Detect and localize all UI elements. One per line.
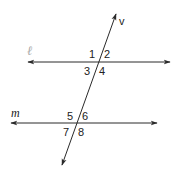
angle-8-label: 8 xyxy=(78,126,84,138)
parallel-lines-transversal-diagram: ℓ m v 1 2 3 4 5 6 7 8 xyxy=(0,0,183,175)
angle-5-label: 5 xyxy=(67,110,73,122)
angle-7-label: 7 xyxy=(63,126,69,138)
transversal-v-label: v xyxy=(119,15,125,27)
angle-1-label: 1 xyxy=(89,48,95,60)
angle-2-label: 2 xyxy=(104,48,110,60)
angle-4-label: 4 xyxy=(99,65,105,77)
line-m-label: m xyxy=(11,106,20,120)
transversal-v xyxy=(62,14,116,165)
angle-6-label: 6 xyxy=(82,110,88,122)
line-l-label: ℓ xyxy=(27,43,33,58)
angle-3-label: 3 xyxy=(84,65,90,77)
